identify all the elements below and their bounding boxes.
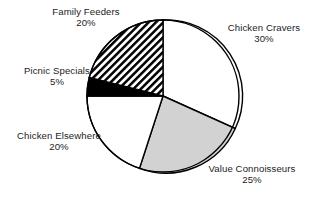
- pie-label-picnic-specials-percent: 5%: [6, 76, 108, 87]
- pie-label-picnic-specials: Picnic Specials 5%: [6, 65, 108, 88]
- pie-label-family-feeders-percent: 20%: [33, 17, 139, 28]
- pie-label-chicken-cravers: Chicken Cravers 30%: [214, 22, 314, 45]
- pie-label-chicken-elsewhere-percent: 20%: [2, 141, 116, 152]
- pie-label-value-connoisseurs: Value Connoisseurs 25%: [192, 163, 312, 186]
- pie-label-chicken-cravers-name: Chicken Cravers: [214, 22, 314, 33]
- pie-label-chicken-cravers-percent: 30%: [214, 33, 314, 44]
- pie-chart: Family Feeders 20% Chicken Cravers 30% P…: [0, 0, 315, 200]
- pie-label-chicken-elsewhere: Chicken Elsewhere 20%: [2, 130, 116, 153]
- pie-label-value-connoisseurs-name: Value Connoisseurs: [192, 163, 312, 174]
- pie-label-value-connoisseurs-percent: 25%: [192, 174, 312, 185]
- pie-label-chicken-elsewhere-name: Chicken Elsewhere: [2, 130, 116, 141]
- pie-label-family-feeders: Family Feeders 20%: [33, 6, 139, 29]
- pie-label-picnic-specials-name: Picnic Specials: [6, 65, 108, 76]
- pie-label-family-feeders-name: Family Feeders: [33, 6, 139, 17]
